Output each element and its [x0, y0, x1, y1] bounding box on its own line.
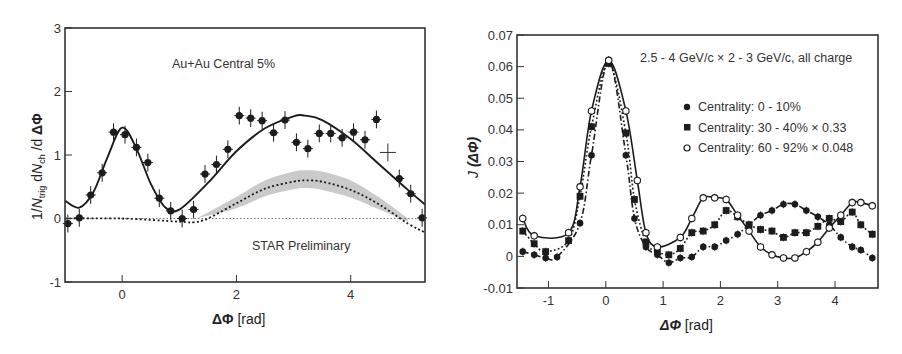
data-point [361, 136, 368, 143]
data-point-open-circle [700, 195, 706, 201]
data-point-filled-square [643, 239, 650, 246]
data-point [144, 159, 151, 166]
data-point-filled-circle [711, 244, 718, 251]
data-point-open-circle [531, 233, 537, 239]
data-point-open-circle [643, 229, 649, 235]
data-point-filled-square [769, 228, 776, 235]
data-point-filled-square [565, 237, 572, 244]
x-tick-label: 3 [774, 293, 781, 308]
x-axis-label: ΔΦ [rad] [659, 317, 713, 333]
data-point [373, 116, 380, 123]
data-point-filled-circle [631, 215, 638, 222]
data-point-filled-circle [792, 201, 799, 208]
x-tick-label: 4 [831, 293, 838, 308]
data-point [190, 206, 197, 213]
data-point-open-circle [803, 248, 809, 254]
data-point-filled-circle [757, 212, 764, 219]
data-point-open-circle [780, 255, 786, 261]
axis-ticks: -101234-0.0100.010.020.030.040.050.060.0… [483, 28, 838, 309]
data-point-filled-circle [531, 251, 538, 258]
data-point-filled-circle [623, 152, 630, 159]
data-point-open-circle [577, 184, 583, 190]
data-point-filled-circle [858, 247, 865, 254]
data-point-filled-square [780, 234, 787, 241]
y-label-sub: trig [37, 186, 47, 199]
x-axis-unit: [rad] [234, 311, 266, 327]
y-tick-label: 1 [54, 148, 61, 163]
data-point-filled-circle [542, 255, 549, 262]
data-point [304, 145, 311, 152]
data-point-filled-square [588, 123, 595, 130]
x-tick-label: 0 [119, 287, 126, 302]
x-tick-label: 4 [347, 287, 354, 302]
y-tick-label: 0.05 [488, 91, 513, 106]
data-point-filled-square [677, 245, 684, 252]
data-point-filled-circle [677, 255, 684, 262]
legend-label: Centrality: 60 - 92% × 0.048 [698, 141, 853, 155]
data-point-filled-square [700, 228, 707, 235]
data-point [110, 129, 117, 136]
y-label-sub: ch [37, 154, 47, 164]
data-point-open-circle [520, 215, 526, 221]
data-point-filled-square [826, 215, 833, 222]
data-point-filled-square [688, 229, 695, 236]
data-point [133, 144, 140, 151]
legend-label: Centrality: 30 - 40% × 0.33 [698, 121, 846, 135]
data-point-filled-square [757, 226, 764, 233]
annotation-star-preliminary: STAR Preliminary [252, 239, 351, 253]
data-point [247, 115, 254, 122]
left-chart: 024-10123 Au+Au Central 5% STAR Prelimin… [0, 0, 450, 354]
data-point-open-circle [689, 215, 695, 221]
legend-label: Centrality: 0 - 10% [698, 100, 801, 114]
data-point-open-circle [849, 199, 855, 205]
y-tick-label: 0.07 [488, 28, 513, 43]
data-point-open-circle [734, 212, 740, 218]
data-point-open-circle [654, 244, 660, 250]
data-point-filled-square [542, 248, 549, 255]
filled-circle-marker-icon [684, 104, 690, 110]
right-chart-panel: -101234-0.0100.010.020.030.040.050.060.0… [450, 0, 902, 354]
open-circle-marker-icon [684, 145, 690, 151]
x-tick-label: -1 [543, 293, 555, 308]
data-point-open-circle [838, 212, 844, 218]
data-point-filled-circle [700, 244, 707, 251]
data-point [121, 131, 128, 138]
x-tick-label: 0 [602, 293, 609, 308]
x-axis-symbol: ΔΦ [212, 311, 234, 327]
data-point-open-circle [677, 234, 683, 240]
data-point-open-circle [815, 239, 821, 245]
data-point-open-circle [723, 196, 729, 202]
data-point-open-circle [605, 57, 611, 63]
data-point-filled-square [723, 207, 730, 214]
y-label-symbol: ΔΦ [29, 113, 45, 135]
data-point-filled-square [622, 130, 629, 137]
data-point [293, 139, 300, 146]
background-curve [65, 180, 425, 232]
legend: Centrality: 0 - 10% Centrality: 30 - 40%… [684, 100, 854, 155]
data-point-filled-square [711, 221, 718, 228]
data-point-filled-circle [723, 237, 730, 244]
x-tick-label: 2 [233, 287, 240, 302]
data-point [87, 191, 94, 198]
data-point [76, 214, 83, 221]
data-point-filled-circle [803, 207, 810, 214]
data-point [270, 129, 277, 136]
data-point-filled-circle [577, 220, 584, 227]
data-point [396, 175, 403, 182]
data-point-filled-square [577, 193, 584, 200]
data-point [327, 130, 334, 137]
data-point [167, 207, 174, 214]
chart-title: 2.5 - 4 GeV/c × 2 - 3 GeV/c, all charge [640, 51, 852, 65]
data-point [350, 129, 357, 136]
data-point [259, 117, 266, 124]
y-tick-label: 0.02 [488, 186, 513, 201]
x-tick-label: 2 [717, 293, 724, 308]
fit-curves [523, 60, 873, 262]
annotation-collision-system: Au+Au Central 5% [172, 57, 275, 71]
x-axis-unit: [rad] [681, 317, 713, 333]
y-label-part: /d [29, 135, 45, 154]
data-point [339, 134, 346, 141]
data-points [63, 107, 427, 233]
y-axis-label: 1/Ntrig dNch /d ΔΦ [29, 113, 47, 220]
data-point-filled-circle [780, 201, 787, 208]
